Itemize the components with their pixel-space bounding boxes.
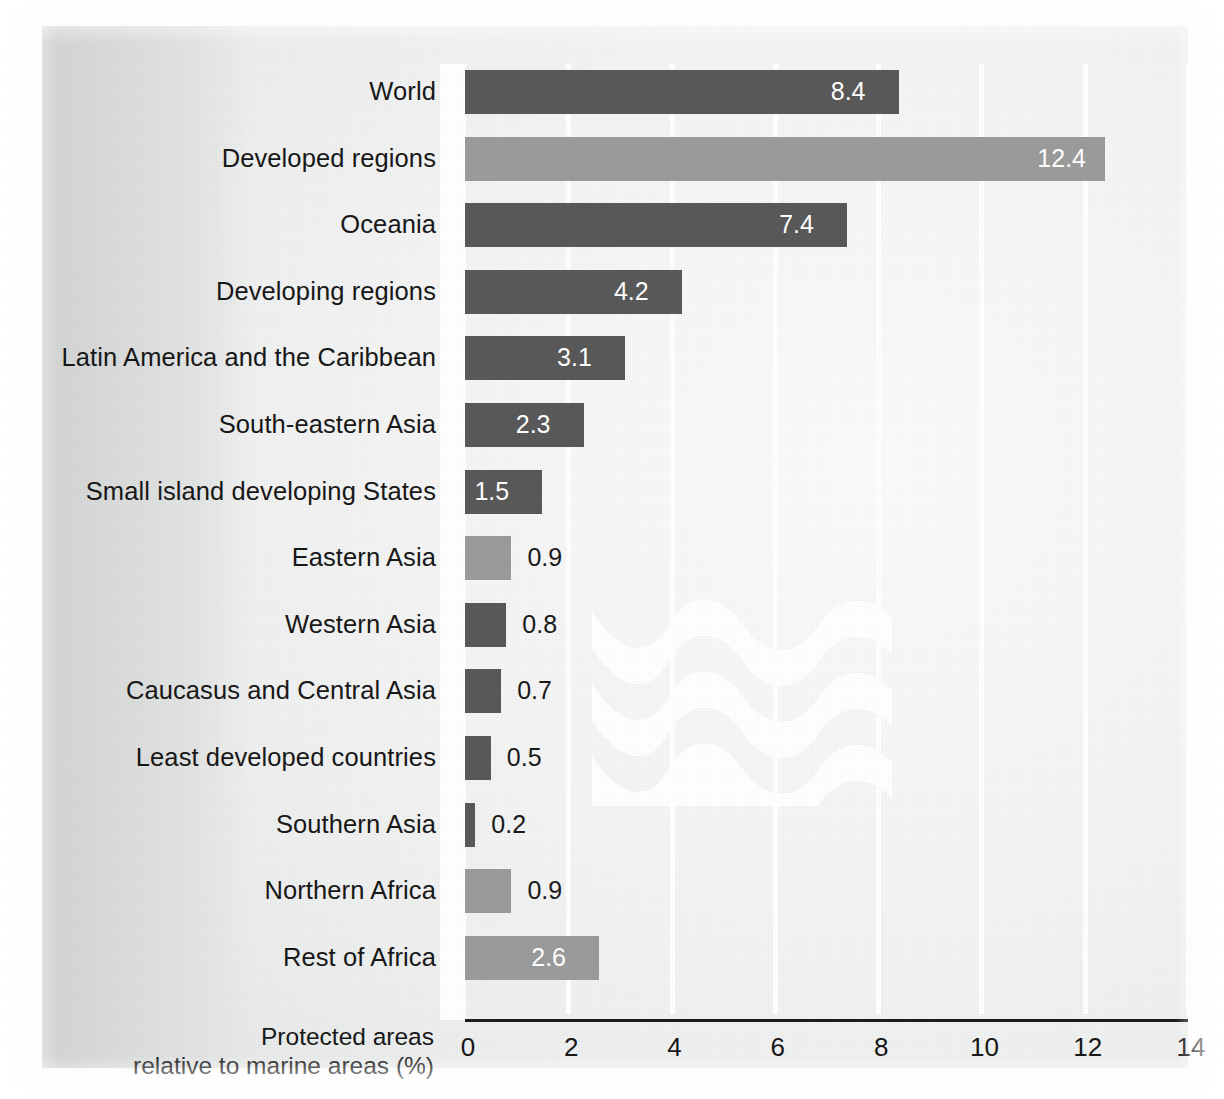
bar <box>465 736 491 780</box>
bar-value-label: 2.3 <box>516 410 551 439</box>
gridline-12 <box>1083 64 1088 1014</box>
bar-chart: World8.4Developed regions12.4Oceania7.4D… <box>0 0 1224 1099</box>
category-label: World <box>369 77 436 106</box>
gridline-14 <box>1186 64 1191 1014</box>
bar-value-label: 0.5 <box>507 743 542 772</box>
x-axis-title-line-1: Protected areas <box>4 1022 434 1051</box>
bar <box>465 536 511 580</box>
bar-value-label: 0.9 <box>527 543 562 572</box>
bar <box>465 270 682 314</box>
category-label: South-eastern Asia <box>219 410 436 439</box>
bar <box>465 336 625 380</box>
wave-decoration-icon <box>592 588 892 806</box>
x-tick-label-6: 6 <box>771 1032 785 1063</box>
x-tick-label-0: 0 <box>461 1032 475 1063</box>
bar-value-label: 7.4 <box>779 210 814 239</box>
x-tick-label-12: 12 <box>1073 1032 1102 1063</box>
bar <box>465 803 475 847</box>
bar <box>465 669 501 713</box>
x-tick-label-8: 8 <box>874 1032 888 1063</box>
bar <box>465 137 1105 181</box>
bar-value-label: 0.2 <box>491 810 526 839</box>
x-axis-title: Protected areas relative to marine areas… <box>4 1022 434 1080</box>
bar-value-label: 0.9 <box>527 876 562 905</box>
bar-value-label: 12.4 <box>1037 144 1086 173</box>
x-tick-label-14: 14 <box>1176 1032 1205 1063</box>
gridline-10 <box>979 64 984 1014</box>
category-label: Southern Asia <box>276 810 436 839</box>
x-tick-label-2: 2 <box>564 1032 578 1063</box>
bar-value-label: 0.7 <box>517 676 552 705</box>
x-tick-label-4: 4 <box>667 1032 681 1063</box>
x-axis-title-line-2: relative to marine areas (%) <box>4 1051 434 1080</box>
category-label: Small island developing States <box>86 477 436 506</box>
bar-value-label: 4.2 <box>614 277 649 306</box>
category-label: Caucasus and Central Asia <box>126 676 436 705</box>
category-label: Northern Africa <box>264 876 436 905</box>
category-label: Western Asia <box>285 610 436 639</box>
axis-gutter <box>440 64 466 1020</box>
category-label: Rest of Africa <box>283 943 436 972</box>
category-label: Oceania <box>340 210 436 239</box>
bar <box>465 869 511 913</box>
scanned-chart-page: World8.4Developed regions12.4Oceania7.4D… <box>0 0 1224 1099</box>
bar-value-label: 0.8 <box>522 610 557 639</box>
category-label: Developing regions <box>216 277 436 306</box>
bar-value-label: 3.1 <box>557 343 592 372</box>
x-tick-label-10: 10 <box>970 1032 999 1063</box>
bar-value-label: 8.4 <box>831 77 866 106</box>
bar-value-label: 2.6 <box>531 943 566 972</box>
x-axis-line <box>465 1019 1188 1022</box>
bar <box>465 603 506 647</box>
category-label: Least developed countries <box>136 743 436 772</box>
category-label: Developed regions <box>222 144 436 173</box>
category-label: Latin America and the Caribbean <box>61 343 436 372</box>
gridline-8 <box>876 64 881 1014</box>
category-label: Eastern Asia <box>292 543 436 572</box>
bar-value-label: 1.5 <box>474 477 509 506</box>
